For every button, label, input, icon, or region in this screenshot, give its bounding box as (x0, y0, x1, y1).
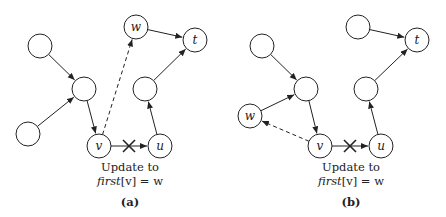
node-a-v: v (87, 134, 111, 158)
edge-a-n2-v (87, 101, 96, 134)
edge-b-n4-t (375, 49, 408, 81)
caption-b: Update to first[v] = w (291, 160, 411, 188)
svg-text:u: u (377, 139, 385, 153)
caption-a-rest: [v] = w (121, 174, 163, 188)
node-a-t: t (183, 28, 207, 52)
edge-b-w-n2 (261, 95, 294, 111)
edge-a-n4-t (154, 49, 186, 81)
edge-a-n3-n2 (37, 97, 74, 126)
panel-label-b: (b) (321, 195, 381, 209)
caption-b-line1: Update to (291, 160, 411, 174)
panel-label-a: (a) (100, 195, 160, 209)
node-b-n2 (294, 77, 318, 101)
caption-a: Update to first[v] = w (70, 160, 190, 188)
node-b-t: t (405, 28, 429, 52)
node-b-n5 (346, 15, 370, 39)
svg-text:v: v (317, 139, 324, 153)
svg-text:w: w (245, 109, 256, 123)
svg-text:v: v (96, 139, 103, 153)
node-a-n2 (72, 77, 96, 101)
caption-b-func: first (318, 174, 342, 188)
svg-text:t: t (193, 33, 198, 47)
node-a-n1 (28, 34, 52, 58)
node-b-w: w (238, 104, 262, 128)
edge-b-n5-t (370, 30, 405, 38)
caption-a-line1: Update to (70, 160, 190, 174)
edge-a-w-t (148, 30, 183, 38)
edge-b-n2-v (309, 101, 317, 134)
node-a-u: u (148, 134, 172, 158)
caption-a-line2: first[v] = w (70, 174, 190, 188)
node-a-w: w (124, 15, 148, 39)
nodes-layer: wtvuwtvu (16, 15, 429, 158)
caption-b-rest: [v] = w (342, 174, 384, 188)
svg-text:t: t (415, 33, 420, 47)
edge-b-n1-n2 (271, 54, 297, 80)
caption-a-func: first (97, 174, 121, 188)
node-b-u: u (369, 134, 393, 158)
node-b-n4 (354, 77, 378, 101)
svg-text:w: w (131, 20, 142, 34)
node-a-n4 (133, 77, 157, 101)
edge-b-u-n4 (369, 102, 378, 135)
node-b-n1 (250, 34, 274, 58)
caption-b-line2: first[v] = w (291, 174, 411, 188)
svg-text:u: u (156, 139, 164, 153)
node-b-v: v (308, 134, 332, 158)
edge-a-u-n4 (148, 102, 157, 135)
edge-b-v-w (262, 121, 309, 141)
edge-a-v-w (103, 39, 133, 134)
node-a-n3 (16, 122, 40, 146)
edge-a-n1-n2 (49, 54, 75, 80)
